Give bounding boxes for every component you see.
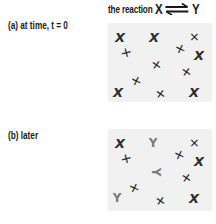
molecule-x: ✕ bbox=[149, 59, 163, 71]
molecule-x: X bbox=[115, 31, 125, 44]
molecule-x: X bbox=[149, 31, 159, 44]
molecule-x: ✕ bbox=[179, 172, 193, 184]
molecule-x: X bbox=[189, 86, 199, 99]
panel-a-initial: XX✕✕✕X✕✕✕X✕X bbox=[108, 23, 212, 102]
title-prefix: the reaction bbox=[108, 4, 153, 15]
molecule-x: ✕ bbox=[179, 66, 193, 78]
equilibrium-arrows-icon bbox=[165, 3, 190, 15]
molecule-x: X bbox=[194, 49, 204, 62]
molecule-x: ✕ bbox=[129, 74, 144, 88]
molecule-y: Y bbox=[150, 168, 162, 177]
panel-a-label: (a) at time, t = 0 bbox=[8, 20, 68, 31]
molecule-x: ✕ bbox=[172, 148, 187, 162]
molecule-x: ✕ bbox=[153, 88, 167, 100]
panel-b-later: XY✕✕✕XY✕✕Y✕X bbox=[108, 129, 212, 211]
molecule-x: ✕ bbox=[173, 42, 188, 56]
reaction-title: the reaction X Y bbox=[108, 1, 199, 17]
molecule-x: X bbox=[189, 192, 199, 205]
molecule-y: Y bbox=[149, 137, 158, 149]
molecule-x: ✕ bbox=[119, 151, 134, 166]
molecule-x: ✕ bbox=[188, 138, 200, 148]
molecule-x: ✕ bbox=[188, 32, 200, 42]
molecule-x: ✕ bbox=[127, 181, 142, 195]
panel-b-label: (b) later bbox=[8, 130, 38, 141]
molecule-x: X bbox=[113, 86, 123, 99]
molecule-x: X bbox=[115, 137, 125, 150]
molecule-y: Y bbox=[113, 192, 122, 204]
molecule-x: ✕ bbox=[153, 195, 167, 207]
product-symbol: Y bbox=[192, 1, 199, 17]
reactant-symbol: X bbox=[155, 1, 162, 17]
molecule-x: ✕ bbox=[119, 45, 134, 60]
molecule-x: X bbox=[194, 155, 204, 168]
